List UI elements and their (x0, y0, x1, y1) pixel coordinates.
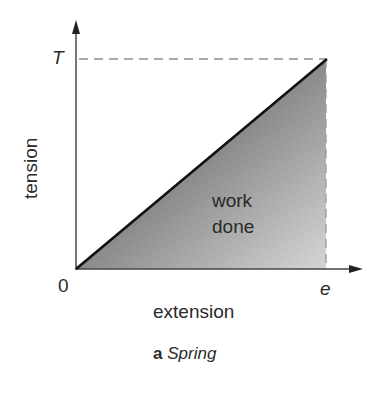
extension-marker-label: e (320, 279, 331, 298)
x-axis-arrow-icon (349, 265, 363, 273)
y-axis-arrow-icon (72, 20, 80, 34)
y-axis-label: tension (21, 138, 40, 199)
x-axis-label: extension (153, 302, 234, 321)
area-label-work: work (212, 191, 252, 210)
caption-title: Spring (167, 344, 216, 363)
tension-marker-label: T (52, 48, 64, 67)
area-label-done: done (212, 217, 254, 236)
caption-letter: a (153, 344, 162, 363)
figure-caption: a Spring (153, 345, 216, 362)
origin-label: 0 (58, 276, 69, 295)
